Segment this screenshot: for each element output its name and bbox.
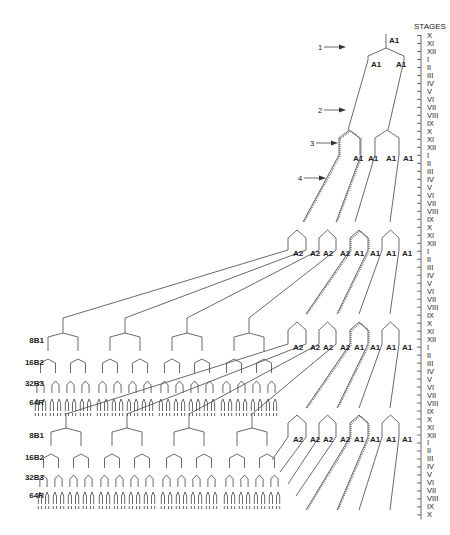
tree-branch xyxy=(191,381,195,385)
tree-branch xyxy=(114,492,116,496)
cell-label: A1 xyxy=(354,249,365,258)
cell-label: A1 xyxy=(386,154,397,163)
tree-branch xyxy=(86,381,90,385)
cell-label: A1 xyxy=(396,60,407,69)
tree-branch xyxy=(73,399,75,403)
tree-branch xyxy=(122,492,124,496)
tree-branch xyxy=(195,381,199,385)
tree-branch xyxy=(144,399,146,403)
tree-branch xyxy=(55,492,57,496)
tree-branch xyxy=(78,359,86,363)
tree-branch xyxy=(264,359,272,363)
tree-branch xyxy=(144,381,148,385)
lineage-branch xyxy=(375,130,399,155)
tree-branch xyxy=(260,454,268,458)
lineage-branch xyxy=(337,344,368,408)
cell-label: A1 xyxy=(354,435,365,444)
tree-branch xyxy=(215,492,217,496)
cell-label: A1 xyxy=(386,435,397,444)
tree-branch xyxy=(237,428,252,432)
tree-branch xyxy=(252,428,267,432)
lineage-branch xyxy=(319,230,336,250)
tree-branch xyxy=(163,475,167,479)
tree-branch xyxy=(247,492,249,496)
lineage-branch xyxy=(350,322,368,344)
lineage-branch xyxy=(127,344,306,414)
tree-branch xyxy=(67,399,69,403)
tree-branch xyxy=(58,399,60,403)
tree-branch xyxy=(44,399,46,403)
tree-branch xyxy=(206,492,208,496)
cell-label: A2 xyxy=(293,343,304,352)
tree-branch xyxy=(227,381,231,385)
lineage-branch xyxy=(388,60,404,130)
tree-branch xyxy=(47,492,49,496)
tree-branch xyxy=(110,359,118,363)
tree-branch xyxy=(176,492,178,496)
tree-branch xyxy=(223,381,227,385)
tree-branch xyxy=(92,492,94,496)
lineage-branch xyxy=(288,415,306,437)
tree-branch xyxy=(88,399,90,403)
tree-branch xyxy=(275,399,277,403)
lineage-branch xyxy=(125,250,306,318)
tree-branch xyxy=(85,492,87,496)
tree-branch xyxy=(68,492,70,496)
lineage-branch xyxy=(272,437,288,460)
tree-branch xyxy=(129,381,133,385)
cell-label: A1 xyxy=(389,36,400,45)
tree-branch xyxy=(278,492,280,496)
tree-branch xyxy=(101,492,103,496)
cell-label: A1 xyxy=(371,60,382,69)
cell-label: A2 xyxy=(310,249,321,258)
tree-branch xyxy=(61,492,63,496)
tree-branch xyxy=(108,492,110,496)
lineage-branch xyxy=(306,250,350,314)
lineage-branch xyxy=(339,130,360,155)
tree-branch xyxy=(189,428,204,432)
tree-branch xyxy=(63,333,78,337)
tree-branch xyxy=(234,333,249,337)
cell-label: A2 xyxy=(293,249,304,258)
arrow-number: 3 xyxy=(310,139,314,148)
cell-label: A1 xyxy=(370,435,381,444)
tree-branch xyxy=(116,475,120,479)
tree-branch xyxy=(44,475,48,479)
tree-branch xyxy=(80,399,82,403)
lineage-branch xyxy=(382,322,399,344)
tree-branch xyxy=(85,475,89,479)
tree-branch xyxy=(129,399,131,403)
tree-branch xyxy=(163,492,165,496)
tree-branch xyxy=(153,492,155,496)
tree-branch xyxy=(182,475,186,479)
tree-branch xyxy=(107,492,109,496)
tree-branch xyxy=(148,381,152,385)
tree-branch xyxy=(210,381,214,385)
tree-branch xyxy=(253,381,257,385)
tree-branch xyxy=(244,399,246,403)
tree-branch xyxy=(151,399,153,403)
tree-branch xyxy=(199,492,201,496)
cell-label: A1 xyxy=(370,249,381,258)
tree-branch xyxy=(167,454,175,458)
tree-branch xyxy=(180,381,184,385)
tree-branch xyxy=(125,333,140,337)
cell-label: A1 xyxy=(370,343,381,352)
tree-branch xyxy=(46,492,48,496)
tree-branch xyxy=(178,475,182,479)
tree-branch xyxy=(140,359,148,363)
lineage-branch xyxy=(359,344,382,408)
cell-label: A1 xyxy=(402,435,413,444)
tree-branch xyxy=(136,399,138,403)
cell-label: A1 xyxy=(386,343,397,352)
lineage-branch xyxy=(368,48,404,60)
tree-branch xyxy=(254,492,256,496)
lineage-branch xyxy=(390,250,399,314)
arrow-head-icon xyxy=(339,45,346,50)
lineage-branch xyxy=(351,323,369,344)
tree-branch xyxy=(260,475,264,479)
lineage-branch xyxy=(348,60,368,130)
tree-branch xyxy=(263,492,265,496)
cell-label: A2 xyxy=(293,435,304,444)
tree-branch xyxy=(191,492,193,496)
